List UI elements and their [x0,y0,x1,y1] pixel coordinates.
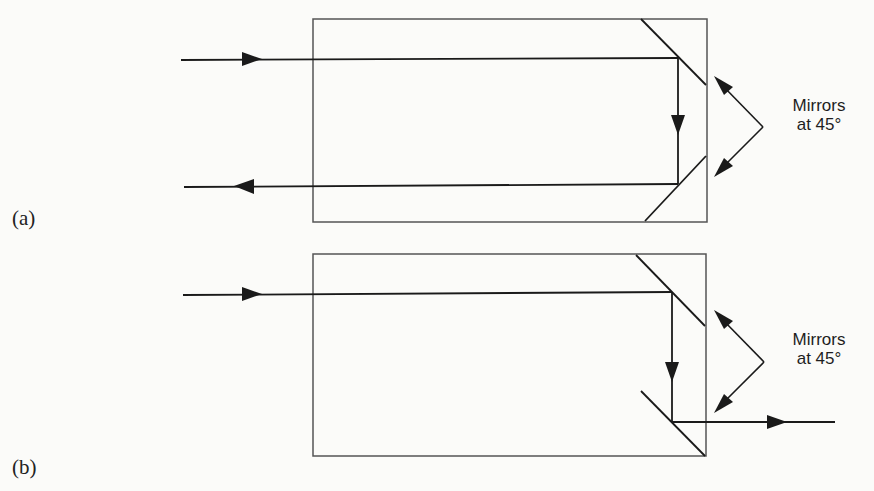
annotation-line1: Mirrors [779,330,859,349]
diagram-canvas: (a) (b) Mirrors at 45° Mirrors at 45° [0,0,874,491]
annotation-line1: Mirrors [779,96,859,115]
panel-b [183,254,835,456]
panel-a [181,19,763,222]
annotation-line2: at 45° [779,115,859,134]
beam-a-output [184,184,678,187]
arrow-right-icon [242,52,262,66]
panel-label-b: (b) [12,455,37,480]
mirror-a-top [641,19,706,85]
mirror-b-top [636,255,705,326]
box-b [313,254,706,456]
mirror-a-bottom [645,156,706,221]
arrow-left-icon [234,179,254,194]
pointer-b-bottom [722,362,764,404]
diagram-svg [0,0,874,491]
arrow-right-icon [767,415,787,429]
arrow-down-icon [671,115,685,135]
arrow-right-icon [242,287,262,301]
pointer-b-top [722,319,764,362]
arrowhead-icon [714,76,733,95]
annotation-a: Mirrors at 45° [779,96,859,134]
annotation-b: Mirrors at 45° [779,330,859,368]
box-a [313,19,707,222]
arrow-down-icon [665,362,679,382]
panel-label-a: (a) [12,206,35,231]
arrowhead-icon [714,310,733,329]
mirror-b-bottom [641,391,705,456]
annotation-line2: at 45° [779,349,859,368]
